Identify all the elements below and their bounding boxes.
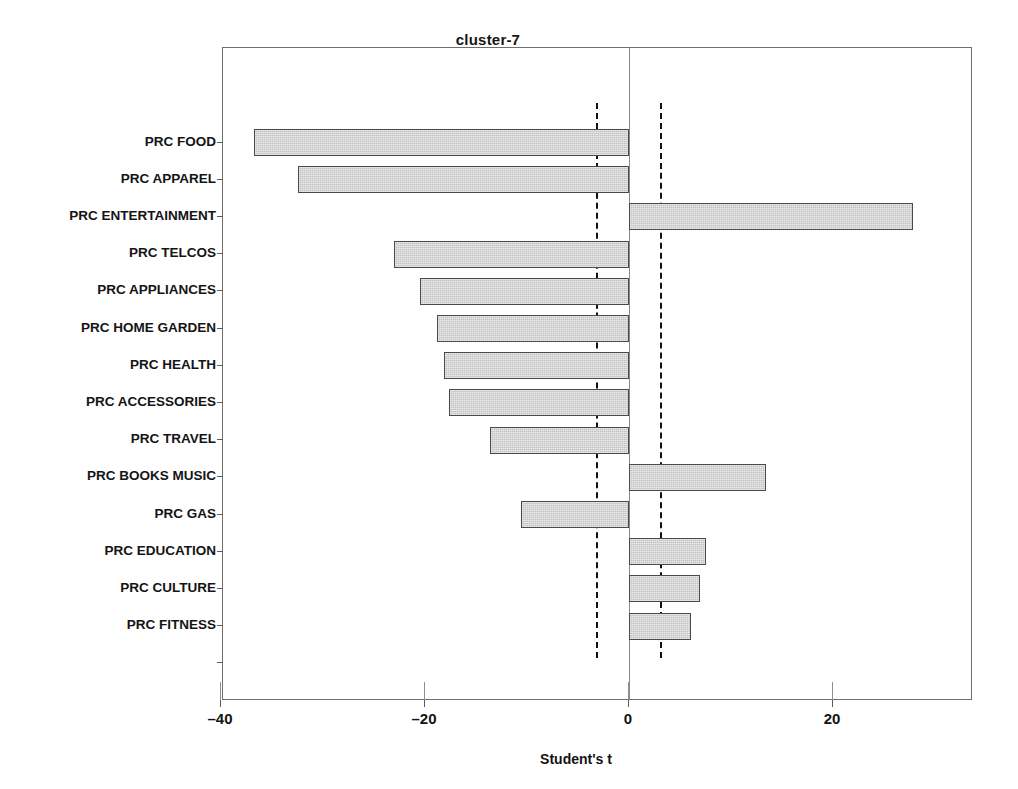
y-axis-tick-label: PRC GAS — [154, 507, 216, 521]
y-axis-tick-label: PRC BOOKS MUSIC — [87, 469, 216, 483]
bar — [629, 613, 691, 640]
bar — [394, 241, 629, 268]
y-axis-tick — [217, 216, 223, 217]
x-axis-tick-label: –20 — [411, 710, 436, 727]
bar — [420, 278, 629, 305]
y-axis-tick-label: PRC ENTERTAINMENT — [69, 209, 216, 223]
y-axis-tick — [217, 328, 223, 329]
y-axis-tick — [217, 625, 223, 626]
x-axis-tick-inner — [628, 682, 629, 700]
y-axis-tick-label: PRC TELCOS — [129, 246, 216, 260]
x-axis-tick — [832, 700, 833, 707]
chart-title-text: cluster-7 — [456, 31, 520, 48]
x-axis-tick-inner — [220, 682, 221, 700]
y-axis-tick — [217, 402, 223, 403]
x-axis-tick-inner — [832, 682, 833, 700]
y-axis-tick — [217, 290, 223, 291]
y-axis-tick-label: PRC HOME GARDEN — [81, 321, 216, 335]
y-axis-tick — [217, 179, 223, 180]
y-axis-tick — [217, 551, 223, 552]
y-axis-tick — [217, 662, 223, 663]
x-axis-title: Student's t — [222, 751, 972, 767]
y-axis-labels: PRC FOODPRC APPARELPRC ENTERTAINMENTPRC … — [0, 47, 216, 700]
y-axis-tick — [217, 588, 223, 589]
x-axis-tick — [628, 700, 629, 707]
x-axis-title-text: Student's t — [540, 751, 612, 767]
x-axis-tick-label: –40 — [207, 710, 232, 727]
bar — [490, 427, 629, 454]
bar — [629, 538, 706, 565]
y-axis-tick-label: PRC CULTURE — [120, 581, 216, 595]
bar — [254, 129, 629, 156]
x-axis-tick-label: 20 — [824, 710, 841, 727]
y-axis-tick-label: PRC EDUCATION — [104, 544, 216, 558]
bar — [444, 352, 629, 379]
x-axis-tick — [424, 700, 425, 707]
bar — [437, 315, 629, 342]
y-axis-tick-label: PRC APPAREL — [121, 172, 216, 186]
bar — [629, 464, 766, 491]
y-axis-tick — [217, 142, 223, 143]
plot-area — [222, 47, 972, 700]
y-axis-tick-label: PRC HEALTH — [130, 358, 216, 372]
y-axis-tick-label: PRC APPLIANCES — [97, 283, 216, 297]
bar — [298, 166, 630, 193]
y-axis-tick — [217, 476, 223, 477]
y-axis-tick — [217, 514, 223, 515]
y-axis-tick — [217, 365, 223, 366]
bar — [629, 203, 913, 230]
y-axis-tick-label: PRC FITNESS — [127, 618, 216, 632]
chart-container: cluster-7 PRC FOODPRC APPARELPRC ENTERTA… — [0, 0, 1018, 789]
x-axis-tick-label: 0 — [624, 710, 632, 727]
y-axis-tick-label: PRC FOOD — [145, 135, 216, 149]
y-axis-tick-label: PRC TRAVEL — [131, 432, 216, 446]
bar — [449, 389, 629, 416]
x-axis-tick — [220, 700, 221, 707]
bar — [629, 575, 700, 602]
bar — [521, 501, 629, 528]
chart-title: cluster-7 — [0, 31, 1018, 48]
x-axis-tick-inner — [424, 682, 425, 700]
y-axis-tick — [217, 439, 223, 440]
y-axis-tick-label: PRC ACCESSORIES — [86, 395, 216, 409]
y-axis-tick — [217, 253, 223, 254]
